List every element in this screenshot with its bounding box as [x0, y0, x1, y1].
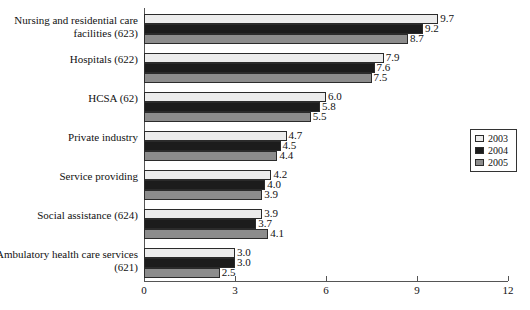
bar-2003[interactable]: [144, 92, 326, 102]
x-tick-label-0: 0: [141, 284, 147, 296]
bar-row: 7.6: [144, 63, 508, 73]
bar-row: 4.4: [144, 151, 508, 161]
bar-row: 4.2: [144, 170, 508, 180]
bar-2003[interactable]: [144, 170, 271, 180]
bar-2005[interactable]: [144, 190, 262, 200]
bar-2005[interactable]: [144, 34, 408, 44]
bar-value-label: 8.7: [408, 32, 424, 45]
x-tick-label-12: 12: [503, 284, 514, 296]
bar-row: 9.7: [144, 14, 508, 24]
category-label: Social assistance (624): [0, 209, 138, 222]
bar-row: 3.7: [144, 219, 508, 229]
bar-2004[interactable]: [144, 102, 320, 112]
bar-row: 4.5: [144, 141, 508, 151]
bar-2003[interactable]: [144, 209, 262, 219]
bar-2004[interactable]: [144, 180, 265, 190]
bar-row: 3.9: [144, 209, 508, 219]
bar-2005[interactable]: [144, 229, 268, 239]
bar-row: 8.7: [144, 34, 508, 44]
bar-row: 4.0: [144, 180, 508, 190]
category-label: Ambulatory health care services (621): [0, 248, 138, 274]
bar-2005[interactable]: [144, 73, 372, 83]
bar-value-label: 5.5: [311, 110, 327, 123]
bar-value-label: 3.9: [262, 188, 278, 201]
category-label: Private industry: [0, 131, 138, 144]
x-tick-label-6: 6: [323, 284, 329, 296]
bar-row: 4.1: [144, 229, 508, 239]
bar-2003[interactable]: [144, 14, 438, 24]
category-label: HCSA (62): [0, 92, 138, 105]
category-label: Hospitals (622): [0, 53, 138, 66]
bar-row: 3.9: [144, 190, 508, 200]
bar-value-label: 4.1: [268, 227, 284, 240]
bar-value-label: 2.5: [220, 266, 236, 279]
bar-2004[interactable]: [144, 24, 423, 34]
bar-2004[interactable]: [144, 219, 256, 229]
bar-chart: 036912 2003 2004 2005 Nursing and reside…: [0, 0, 530, 310]
bar-row: 2.5: [144, 268, 508, 278]
bar-2004[interactable]: [144, 63, 375, 73]
bar-row: 7.9: [144, 53, 508, 63]
bar-2003[interactable]: [144, 53, 384, 63]
bar-row: 3.0: [144, 258, 508, 268]
bar-2003[interactable]: [144, 248, 235, 258]
bar-2005[interactable]: [144, 151, 277, 161]
x-axis-line: [144, 281, 508, 282]
bar-value-label: 7.5: [372, 71, 388, 84]
bar-value-label: 4.4: [277, 149, 293, 162]
bar-2003[interactable]: [144, 131, 287, 141]
bar-row: 3.0: [144, 248, 508, 258]
bar-2004[interactable]: [144, 141, 281, 151]
x-tick-label-9: 9: [414, 284, 420, 296]
bar-row: 5.5: [144, 112, 508, 122]
category-label: Nursing and residential care facilities …: [0, 14, 138, 40]
bar-row: 9.2: [144, 24, 508, 34]
bar-2005[interactable]: [144, 112, 311, 122]
bar-row: 4.7: [144, 131, 508, 141]
x-tick-label-3: 3: [232, 284, 238, 296]
bar-2005[interactable]: [144, 268, 220, 278]
category-label: Service providing: [0, 170, 138, 183]
bar-row: 7.5: [144, 73, 508, 83]
